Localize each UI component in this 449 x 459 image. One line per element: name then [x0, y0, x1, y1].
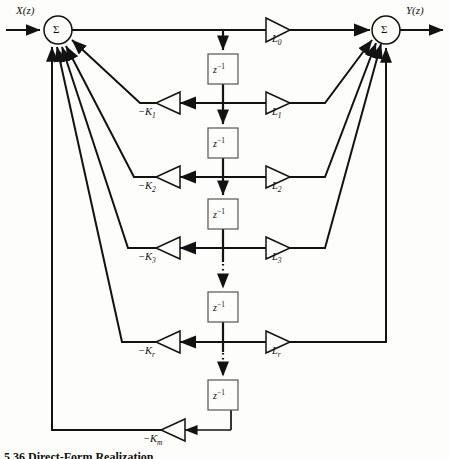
- gain-Km-triangle: [161, 419, 185, 441]
- delay-3-label: z−1: [213, 207, 225, 220]
- K3-to-summer: [62, 47, 156, 248]
- left-summer-label: Σ: [53, 23, 59, 35]
- delay-2-label: z−1: [213, 136, 225, 149]
- gain-Km-sub: m: [157, 438, 162, 447]
- Lr-to-summer: [290, 48, 386, 342]
- gain-K3-sub: 3: [152, 256, 156, 265]
- output-label: Y(z): [406, 4, 424, 16]
- gain-K1-base: −K: [138, 106, 152, 117]
- delay-5-label: z−1: [213, 388, 225, 401]
- L3-to-summer: [290, 44, 381, 248]
- gain-K1-label: −K1: [138, 106, 156, 120]
- delay-2-exp: −1: [217, 136, 225, 145]
- delay-3-exp: −1: [217, 207, 225, 216]
- figure-caption: 5.36 Direct-Form Realization: [4, 450, 153, 459]
- gain-L1-label: L1: [272, 106, 282, 120]
- Km-to-summer: [52, 47, 161, 430]
- gain-L2-sub: 2: [278, 185, 282, 194]
- input-label: X(z): [16, 4, 34, 16]
- gain-Lr-sub: r: [278, 350, 281, 359]
- gain-Kr-base: −K: [138, 345, 152, 356]
- gain-Kr-label: −Kr: [138, 345, 155, 359]
- gain-K1-sub: 1: [152, 111, 156, 120]
- gain-K2-sub: 2: [152, 185, 156, 194]
- gain-Km-label: −Km: [143, 433, 163, 447]
- L1-to-summer: [290, 40, 372, 103]
- delay-5-exp: −1: [217, 388, 225, 397]
- gain-K2-base: −K: [138, 180, 152, 191]
- gain-L3-sub: 3: [278, 256, 282, 265]
- gain-L3-label: L3: [272, 251, 282, 265]
- figure-canvas: X(z) Y(z) Σ Σ z−1 z−1 z−1 z−1 z−1 L0 L1 …: [0, 0, 449, 459]
- gain-Kr-sub: r: [152, 350, 155, 359]
- gain-K3-label: −K3: [138, 251, 156, 265]
- gain-K1-triangle: [156, 92, 180, 114]
- delay-1-label: z−1: [213, 62, 225, 75]
- right-summer-label: Σ: [381, 23, 387, 35]
- gain-L1-sub: 1: [278, 111, 282, 120]
- delay-1-exp: −1: [217, 62, 225, 71]
- gain-K2-label: −K2: [138, 180, 156, 194]
- gain-K3-triangle: [156, 237, 180, 259]
- Kr-to-summer: [57, 47, 156, 342]
- gain-Lr-label: Lr: [272, 345, 281, 359]
- gain-L2-label: L2: [272, 180, 282, 194]
- gain-K2-triangle: [156, 166, 180, 188]
- gain-Kr-triangle: [156, 331, 180, 353]
- gain-L0-sub: 0: [278, 38, 282, 47]
- gain-Km-base: −K: [143, 433, 157, 444]
- delay-4-label: z−1: [213, 300, 225, 313]
- delay-4-exp: −1: [217, 300, 225, 309]
- K1-to-summer: [72, 40, 156, 103]
- gain-L0-label: L0: [272, 33, 282, 47]
- gain-K3-base: −K: [138, 251, 152, 262]
